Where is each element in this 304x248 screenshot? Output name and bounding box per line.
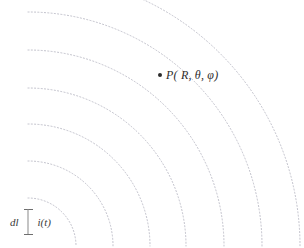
- wavefront-arc-group: [28, 0, 300, 246]
- current-element-bottom-cap: [24, 234, 33, 235]
- radiation-pattern-figure: P( R, θ, φ) dl i(t): [0, 0, 304, 248]
- current-element-icon: [24, 209, 33, 235]
- wavefront-arc-4: [28, 88, 186, 246]
- field-point-marker: [158, 73, 162, 77]
- current-label: i(t): [38, 217, 51, 228]
- differential-length-label: dl: [10, 217, 19, 228]
- field-point-label: P( R, θ, φ): [166, 69, 218, 81]
- current-element-annotation: dl i(t): [10, 209, 51, 235]
- current-element-stem: [28, 209, 29, 235]
- field-point-annotation: P( R, θ, φ): [158, 69, 218, 81]
